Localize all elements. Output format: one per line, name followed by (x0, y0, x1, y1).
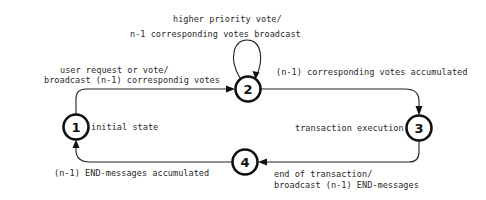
label-1-to-2-line1: user request or vote/ (60, 65, 169, 75)
state-number-4: 4 (240, 155, 249, 170)
label-2-to-3: (n-1) corresponding votes accumulated (276, 67, 467, 77)
state-diagram: 1 2 3 4 higher priority vote/ n-1 corres… (0, 0, 486, 200)
state-node-4: 4 (233, 150, 258, 175)
label-self-loop-line1: higher priority vote/ (173, 14, 282, 24)
edge-3-to-4 (260, 141, 419, 162)
state-node-2: 2 (236, 77, 261, 102)
arrowhead-into-4 (258, 159, 267, 166)
label-self-loop-line2: n-1 corresponding votes broadcast (130, 29, 301, 39)
state-number-1: 1 (71, 120, 80, 135)
edge-2-to-3 (261, 89, 419, 113)
arrowhead-into-2 (226, 86, 235, 93)
label-3-to-4-line2: broadcast (n-1) END-messages (274, 180, 419, 190)
state-number-3: 3 (414, 121, 423, 136)
state-3-description: transaction execution (295, 123, 404, 133)
label-1-to-2-line2: broadcast (n-1) correspondig votes (44, 75, 220, 85)
state-node-1: 1 (64, 115, 89, 140)
state-1-description: initial state (91, 122, 158, 132)
arrowhead-into-3 (416, 106, 423, 116)
state-node-3: 3 (407, 116, 432, 141)
label-3-to-4-line1: end of transaction/ (274, 169, 372, 179)
label-4-to-1: (n-1) END-messages accumulated (54, 168, 209, 178)
state-number-2: 2 (243, 82, 252, 97)
edge-4-to-1 (76, 142, 232, 162)
edge-1-to-2 (76, 89, 233, 114)
